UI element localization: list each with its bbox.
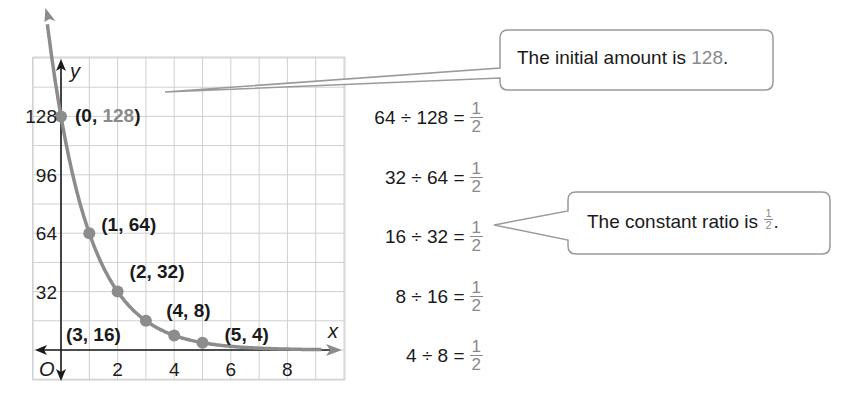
fraction-numerator: 1 bbox=[470, 219, 483, 237]
data-point bbox=[168, 329, 180, 341]
point-label: (3, 16) bbox=[66, 324, 121, 345]
y-tick-label: 96 bbox=[36, 165, 57, 186]
ratio-equation: 32 ÷ 64 =12 bbox=[385, 160, 483, 195]
ratio-expression: 16 ÷ 32 = bbox=[385, 226, 465, 248]
fraction-denominator: 2 bbox=[765, 220, 771, 231]
point-label: (2, 32) bbox=[130, 261, 185, 282]
ratio-fraction: 12 bbox=[764, 208, 772, 231]
x-tick-label: 2 bbox=[112, 359, 123, 380]
point-label: (4, 8) bbox=[166, 300, 210, 321]
fraction-numerator: 1 bbox=[470, 100, 483, 118]
data-point bbox=[197, 337, 209, 349]
ratio-result-fraction: 12 bbox=[470, 219, 483, 254]
ratio-equation: 16 ÷ 32 =12 bbox=[385, 219, 483, 254]
callout-text-after: . bbox=[723, 47, 728, 68]
ratio-expression: 4 ÷ 8 = bbox=[406, 345, 465, 367]
fraction-denominator: 2 bbox=[472, 237, 481, 254]
ratio-expression: 8 ÷ 16 = bbox=[395, 286, 464, 308]
fraction-denominator: 2 bbox=[472, 118, 481, 135]
fraction-numerator: 1 bbox=[470, 160, 483, 178]
fraction-denominator: 2 bbox=[472, 178, 481, 195]
point-label: (5, 4) bbox=[225, 324, 269, 345]
y-tick-label: 128 bbox=[25, 106, 57, 127]
ratio-result-fraction: 12 bbox=[470, 338, 483, 373]
y-tick-label: 32 bbox=[36, 282, 57, 303]
ratio-equation: 4 ÷ 8 =12 bbox=[406, 338, 483, 373]
ratio-expression: 64 ÷ 128 = bbox=[374, 107, 464, 129]
callout-text-after: . bbox=[774, 211, 779, 232]
data-point bbox=[140, 315, 152, 327]
point-label: (1, 64) bbox=[101, 214, 156, 235]
ratio-result-fraction: 12 bbox=[470, 100, 483, 135]
x-tick-label: 4 bbox=[169, 359, 180, 380]
fraction-denominator: 2 bbox=[472, 356, 481, 373]
fraction-denominator: 2 bbox=[472, 297, 481, 314]
ratio-result-fraction: 12 bbox=[470, 279, 483, 314]
y-tick-label: 64 bbox=[36, 223, 58, 244]
ratio-equation: 8 ÷ 16 =12 bbox=[395, 279, 483, 314]
callout-text-before: The constant ratio is bbox=[587, 211, 763, 232]
point-labels: (0, 128)(1, 64)(2, 32)(3, 16)(4, 8)(5, 4… bbox=[66, 105, 269, 344]
x-tick-label: 6 bbox=[226, 359, 237, 380]
origin-label: O bbox=[39, 358, 55, 380]
data-point bbox=[112, 286, 124, 298]
ratio-equation: 64 ÷ 128 =12 bbox=[374, 100, 483, 135]
ratio-result-fraction: 12 bbox=[470, 160, 483, 195]
initial-amount-value: 128 bbox=[691, 47, 723, 68]
x-axis-label: x bbox=[327, 320, 339, 342]
data-point bbox=[83, 227, 95, 239]
fraction-numerator: 1 bbox=[470, 279, 483, 297]
callout-text-before: The initial amount is bbox=[517, 47, 691, 68]
y-axis-label: y bbox=[68, 60, 81, 82]
callout-initial-amount-text: The initial amount is 128. bbox=[517, 47, 728, 69]
ratio-expression: 32 ÷ 64 = bbox=[385, 167, 465, 189]
x-tick-label: 8 bbox=[282, 359, 293, 380]
fraction-numerator: 1 bbox=[470, 338, 483, 356]
point-label: (0, 128) bbox=[75, 105, 140, 126]
callout-constant-ratio-text: The constant ratio is 12. bbox=[587, 211, 779, 234]
